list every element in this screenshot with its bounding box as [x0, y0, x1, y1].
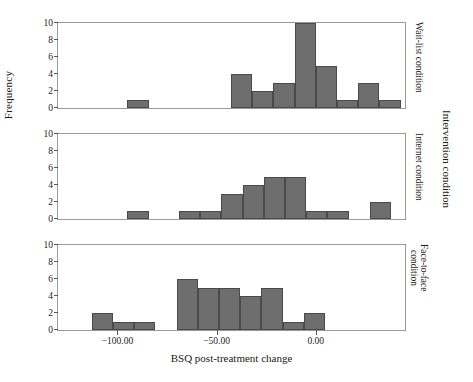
histogram-bar	[243, 185, 264, 219]
histogram-bar	[240, 296, 261, 330]
y-axis-tick-label: 8	[48, 257, 58, 267]
y-axis-tick-mark	[54, 261, 58, 262]
y-axis-tick-mark	[54, 56, 58, 57]
histogram-bar	[316, 66, 337, 109]
histogram-bar	[221, 194, 242, 220]
panel-label-face-to-face: Face-to-face condition	[409, 244, 429, 331]
y-axis-tick-mark	[54, 329, 58, 330]
y-axis-tick-mark	[54, 295, 58, 296]
y-axis-tick-label: 0	[48, 214, 58, 224]
y-axis-tick-label: 10	[44, 18, 59, 28]
panel-label-wait-list-text: Wait-list condition	[414, 22, 424, 93]
x-axis-tick-label: −50.00	[203, 336, 230, 346]
histogram-bar	[283, 322, 304, 331]
y-axis-tick-mark	[54, 150, 58, 151]
panel-internet: 0246810	[57, 133, 406, 220]
histogram-bar	[337, 100, 358, 109]
y-axis-tick-label: 6	[48, 52, 58, 62]
y-axis-tick-label: 4	[48, 180, 58, 190]
panel-label-internet-text: Internet condition	[414, 133, 424, 201]
x-axis-title: BSQ post-treatment change	[57, 352, 406, 364]
panel-label-face-to-face-text: Face-to-face condition	[409, 244, 429, 291]
y-axis-tick-label: 10	[44, 129, 59, 139]
panel-label-internet: Internet condition	[409, 133, 429, 220]
x-axis-tick-label: −100.00	[102, 336, 133, 346]
histogram-bar	[92, 313, 113, 330]
y-axis-tick-mark	[54, 167, 58, 168]
figure: Frequency 0246810 0246810 0246810−100.00…	[0, 0, 473, 382]
histogram-bar	[177, 279, 198, 330]
y-axis-tick-mark	[54, 39, 58, 40]
histogram-bar	[379, 100, 400, 109]
histogram-bar	[264, 177, 285, 220]
histogram-bar	[304, 313, 325, 330]
y-axis-tick-mark	[54, 133, 58, 134]
y-axis-tick-mark	[54, 312, 58, 313]
y-axis-tick-label: 0	[48, 325, 58, 335]
histogram-bar	[231, 74, 252, 108]
y-axis-tick-mark	[54, 218, 58, 219]
x-axis-tick-label: 0.00	[307, 336, 324, 346]
y-axis-tick-label: 2	[48, 86, 58, 96]
histogram-bar	[127, 100, 148, 109]
intervention-condition-label: Intervention condition	[437, 110, 457, 210]
y-axis-tick-mark	[54, 278, 58, 279]
histogram-bar	[261, 288, 282, 331]
panel-label-wait-list: Wait-list condition	[409, 22, 429, 109]
histogram-bar	[306, 211, 327, 220]
histogram-bar	[134, 322, 155, 331]
histogram-bar	[358, 83, 379, 109]
x-axis-tick-mark	[217, 330, 218, 335]
y-axis-tick-mark	[54, 244, 58, 245]
plot-area-internet: 0246810	[58, 134, 405, 219]
histogram-bar	[200, 211, 221, 220]
y-axis-tick-label: 8	[48, 35, 58, 45]
y-axis-tick-mark	[54, 184, 58, 185]
histogram-bar	[219, 288, 240, 331]
histogram-bar	[327, 211, 348, 220]
y-axis-tick-label: 6	[48, 274, 58, 284]
y-axis-tick-label: 4	[48, 69, 58, 79]
y-axis-tick-label: 10	[44, 240, 59, 250]
x-axis-tick-mark	[117, 330, 118, 335]
plot-area-face-to-face: 0246810−100.00−50.000.00	[58, 245, 405, 330]
y-axis-tick-mark	[54, 73, 58, 74]
y-axis-tick-label: 2	[48, 197, 58, 207]
panel-wait-list: 0246810	[57, 22, 406, 109]
plot-area-wait-list: 0246810	[58, 23, 405, 108]
intervention-condition-text: Intervention condition	[441, 110, 453, 208]
y-axis-tick-mark	[54, 22, 58, 23]
y-axis-title: Frequency	[2, 50, 14, 140]
histogram-bar	[273, 83, 294, 109]
y-axis-tick-label: 0	[48, 103, 58, 113]
y-axis-tick-mark	[54, 201, 58, 202]
y-axis-tick-mark	[54, 107, 58, 108]
y-axis-tick-label: 2	[48, 308, 58, 318]
y-axis-tick-label: 8	[48, 146, 58, 156]
histogram-bar	[127, 211, 148, 220]
y-axis-tick-label: 6	[48, 163, 58, 173]
panel-face-to-face: 0246810−100.00−50.000.00	[57, 244, 406, 331]
histogram-bar	[113, 322, 134, 331]
histogram-bar	[179, 211, 200, 220]
histogram-bar	[285, 177, 306, 220]
histogram-bar	[370, 202, 391, 219]
histogram-bar	[295, 23, 316, 108]
y-axis-tick-mark	[54, 90, 58, 91]
x-axis-tick-mark	[316, 330, 317, 335]
y-axis-tick-label: 4	[48, 291, 58, 301]
histogram-bar	[198, 288, 219, 331]
histogram-bar	[252, 91, 273, 108]
